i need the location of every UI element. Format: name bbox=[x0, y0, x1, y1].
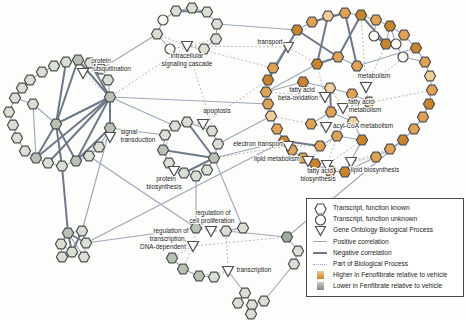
transcript-known-node-E9 bbox=[193, 271, 204, 281]
edge-positive-correlation bbox=[110, 97, 175, 126]
transcript-known-node-B9 bbox=[104, 92, 115, 102]
transcript-known-node-RR11 bbox=[370, 152, 381, 162]
transcript-known-node-E6 bbox=[288, 259, 299, 269]
process-label-PB: biosynthesis bbox=[146, 183, 181, 191]
transcript-known-node-D11 bbox=[206, 126, 217, 136]
transcript-known-node-RT4 bbox=[339, 8, 350, 18]
legend-item: Part of Biological Process bbox=[313, 259, 458, 270]
transcript-known-node-B23 bbox=[104, 123, 115, 133]
legend-item-label: Negative correlation bbox=[333, 250, 392, 257]
edge-part-of-process bbox=[193, 237, 287, 246]
transcript-unknown-node-A1 bbox=[158, 15, 168, 25]
transcript-known-node-B13 bbox=[11, 133, 22, 143]
edge-part-of-process bbox=[226, 231, 228, 271]
go-process-triangle-TAC bbox=[321, 123, 332, 133]
process-label-TLB: lipid biosynthesis bbox=[351, 166, 399, 174]
transcript-known-node-D9 bbox=[208, 153, 219, 163]
transcript-known-node-A2 bbox=[170, 6, 181, 16]
transcript-unknown-node-W2 bbox=[398, 52, 408, 62]
transcript-known-node-B21 bbox=[50, 119, 61, 129]
process-label-ISC: signaling cascade bbox=[162, 60, 213, 68]
transcript-known-node-E3 bbox=[237, 223, 248, 233]
transcript-known-node-C1 bbox=[62, 228, 73, 238]
transcript-known-node-B11 bbox=[3, 107, 14, 117]
transcript-known-node-RT6 bbox=[370, 15, 381, 25]
transcript-known-node-E8 bbox=[177, 264, 188, 274]
edge-negative-correlation bbox=[317, 16, 328, 64]
go-process-triangle-PU bbox=[78, 69, 89, 79]
transcript-known-node-RR7 bbox=[417, 112, 428, 122]
transcript-known-node-D1 bbox=[181, 117, 192, 127]
process-label-TR: transport bbox=[257, 38, 282, 46]
transcript-known-node-IN10 bbox=[305, 119, 316, 129]
transcript-known-node-B19 bbox=[83, 151, 94, 161]
legend-box: Transcript, function knownTranscript, fu… bbox=[306, 198, 464, 297]
legend-item: Transcript, function known bbox=[313, 203, 458, 214]
transcript-known-node-A3 bbox=[186, 3, 197, 13]
transcript-known-node-D7 bbox=[190, 171, 201, 181]
legend-item-label: Transcript, function known bbox=[333, 205, 410, 212]
transcript-known-node-RB2 bbox=[339, 167, 350, 177]
go-process-triangle-RCP bbox=[206, 227, 217, 237]
legend-item: Positive correlation bbox=[313, 236, 458, 247]
transcript-known-node-B8 bbox=[102, 75, 113, 85]
edge-negative-correlation bbox=[297, 30, 338, 57]
transcript-known-node-IN12 bbox=[331, 131, 342, 141]
go-process-triangle-AP bbox=[198, 120, 209, 130]
edge-positive-correlation bbox=[110, 128, 165, 135]
transcript-known-node-RR6 bbox=[423, 99, 434, 109]
transcript-known-node-RL3 bbox=[260, 87, 271, 97]
transcript-known-node-E1 bbox=[190, 223, 201, 233]
transcript-known-node-A5 bbox=[211, 19, 222, 29]
process-label-TET: electron transport bbox=[233, 140, 283, 148]
transcript-known-node-E7 bbox=[166, 253, 177, 263]
transcript-known-node-A9 bbox=[151, 29, 162, 39]
transcript-known-node-F5 bbox=[245, 309, 256, 319]
transcript-known-node-F3 bbox=[246, 300, 257, 310]
process-label-TM: metabolism bbox=[358, 72, 391, 79]
transcript-known-node-RR3 bbox=[419, 57, 430, 67]
edge-positive-correlation bbox=[110, 97, 268, 104]
transcript-known-node-RL6 bbox=[271, 124, 282, 134]
process-label-TFAB: fatty acid bbox=[307, 167, 333, 175]
transcript-known-node-D2 bbox=[169, 121, 180, 131]
legend-item: Negative correlation bbox=[313, 248, 458, 259]
process-label-TLM: lipid metabolism bbox=[254, 155, 300, 163]
transcript-known-node-IN2 bbox=[332, 52, 343, 62]
edge-part-of-process bbox=[366, 48, 416, 87]
process-label-TFM: fatty acid bbox=[348, 98, 374, 106]
legend-item-label: Gene Ontology Biological Process bbox=[333, 227, 433, 234]
transcript-known-node-IN13 bbox=[356, 135, 367, 145]
transcript-known-node-F1 bbox=[239, 288, 250, 298]
transcript-known-node-IN9 bbox=[380, 39, 391, 49]
transcript-known-node-B22 bbox=[27, 99, 38, 109]
transcript-known-node-RR1 bbox=[398, 30, 409, 40]
transcript-known-node-D3 bbox=[159, 130, 170, 140]
transcript-known-node-B18 bbox=[70, 156, 81, 166]
transcript-known-node-RT2 bbox=[306, 17, 317, 27]
transcript-known-node-C2 bbox=[76, 226, 87, 236]
transcript-known-node-F2 bbox=[232, 298, 243, 308]
transcript-known-node-RR5 bbox=[426, 85, 437, 95]
line-positive-icon bbox=[313, 241, 327, 242]
transcript-known-node-RR2 bbox=[410, 43, 421, 53]
transcript-known-node-RL2 bbox=[262, 75, 273, 85]
line-negative-icon bbox=[313, 252, 327, 254]
process-label-TAC: acyl-CoA metabolism bbox=[333, 122, 393, 130]
transcript-known-node-C6 bbox=[78, 252, 89, 262]
transcript-known-node-RL5 bbox=[265, 111, 276, 121]
edge-part-of-process bbox=[366, 44, 386, 87]
process-label-TTR: transcription bbox=[237, 266, 272, 274]
process-label-RT: transcription, bbox=[150, 235, 187, 243]
transcript-known-node-B10 bbox=[9, 93, 20, 103]
legend-item-label: Lower in Fenfibrate relative to vehicle bbox=[333, 283, 442, 290]
transcript-known-node-IN8 bbox=[325, 107, 336, 117]
transcript-known-node-B17 bbox=[56, 161, 67, 171]
transcript-known-node-B3 bbox=[48, 61, 59, 71]
legend-item-label: Transcript, function unknown bbox=[333, 216, 417, 223]
transcript-known-node-B12 bbox=[7, 120, 18, 130]
legend-item: Lower in Fenfibrate relative to vehicle bbox=[313, 281, 458, 292]
legend-item-label: Positive correlation bbox=[333, 239, 389, 246]
transcript-known-node-B4 bbox=[60, 57, 71, 67]
transcript-known-node-RR10 bbox=[384, 144, 395, 154]
